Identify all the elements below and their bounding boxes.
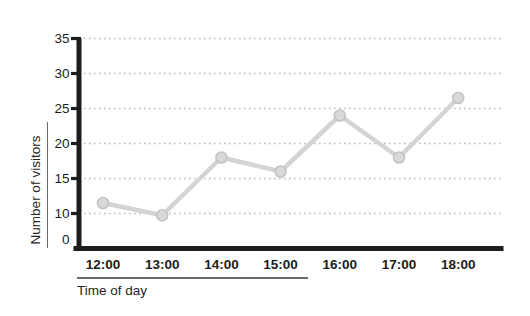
y-axis-title: Number of visitors: [28, 90, 44, 290]
chart-plot: 010152025303512:0013:0014:0015:0016:0017…: [0, 0, 530, 316]
x-tick-label-15:00: 15:00: [263, 257, 298, 272]
y-tick-label-15: 15: [54, 171, 69, 186]
x-axis-title-rule: [77, 277, 308, 279]
x-tick-label-16:00: 16:00: [323, 257, 358, 272]
data-point-16:00: [334, 110, 345, 121]
data-point-12:00: [98, 198, 109, 209]
data-point-13:00: [157, 210, 168, 221]
data-point-17:00: [394, 152, 405, 163]
y-tick-label-10: 10: [54, 206, 69, 221]
y-tick-label-20: 20: [54, 136, 69, 151]
y-tick-label-35: 35: [54, 31, 69, 46]
x-tick-label-12:00: 12:00: [86, 257, 121, 272]
data-point-14:00: [216, 152, 227, 163]
line-chart: 010152025303512:0013:0014:0015:0016:0017…: [0, 0, 530, 316]
y-tick-label-30: 30: [54, 66, 69, 81]
data-point-15:00: [275, 166, 286, 177]
y-tick-label-0: 0: [62, 232, 70, 247]
y-axis-title-rule: [47, 122, 49, 248]
x-axis-title: Time of day: [77, 283, 147, 298]
x-tick-label-18:00: 18:00: [441, 257, 476, 272]
y-tick-label-25: 25: [54, 101, 69, 116]
x-tick-label-13:00: 13:00: [145, 257, 180, 272]
x-tick-label-14:00: 14:00: [204, 257, 239, 272]
data-point-18:00: [453, 93, 464, 104]
x-tick-label-17:00: 17:00: [382, 257, 417, 272]
